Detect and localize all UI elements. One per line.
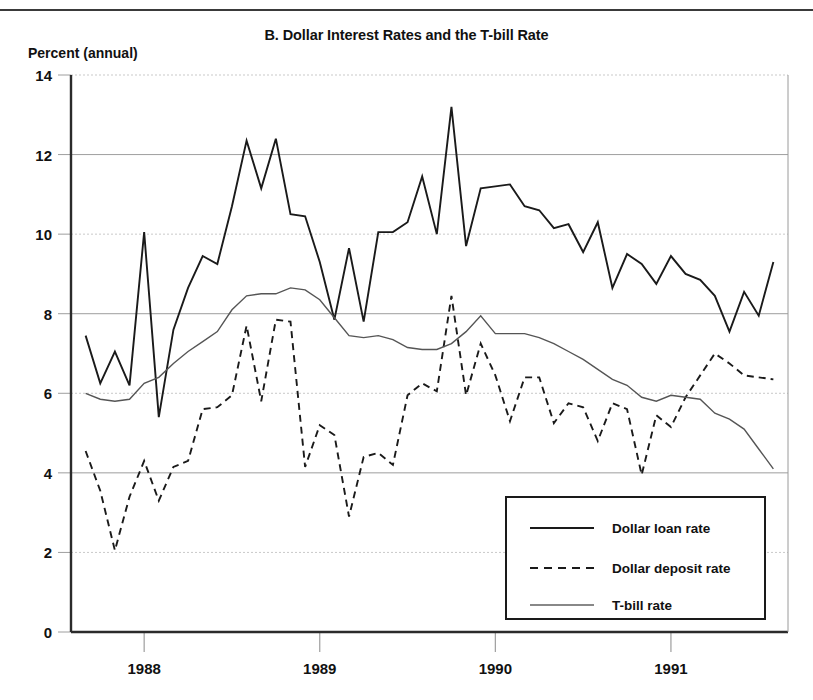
legend-label-1: Dollar deposit rate: [612, 561, 731, 576]
x-tick-label-1990: 1990: [479, 660, 512, 677]
x-tick-group: 1988198919901991: [127, 632, 687, 677]
x-tick-label-1991: 1991: [654, 660, 687, 677]
series-line-dollar-loan-rate: [86, 107, 774, 417]
y-tick-label-10: 10: [35, 226, 52, 243]
data-series-group: [86, 107, 774, 551]
y-tick-label-8: 8: [44, 306, 52, 323]
x-tick-label-1988: 1988: [127, 660, 160, 677]
y-tick-label-6: 6: [44, 385, 52, 402]
legend-label-2: T-bill rate: [612, 598, 673, 613]
y-tick-group: 02468101214: [35, 67, 71, 641]
legend-label-0: Dollar loan rate: [612, 521, 711, 536]
y-tick-label-2: 2: [44, 544, 52, 561]
y-tick-label-14: 14: [35, 67, 52, 84]
y-tick-label-0: 0: [44, 624, 52, 641]
y-tick-label-4: 4: [44, 465, 53, 482]
x-tick-label-1989: 1989: [303, 660, 336, 677]
chart-legend: Dollar loan rate Dollar deposit rate T-b…: [506, 497, 765, 619]
series-line-t-bill-rate: [86, 288, 774, 469]
y-tick-label-12: 12: [35, 147, 52, 164]
figure-container: B. Dollar Interest Rates and the T-bill …: [0, 0, 813, 700]
line-chart-plot: 02468101214 1988198919901991 Dollar loan…: [0, 0, 813, 700]
